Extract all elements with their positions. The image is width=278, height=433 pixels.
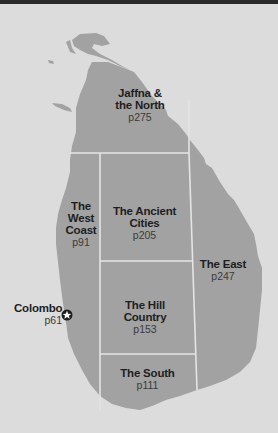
- mannar-islet: [52, 103, 72, 112]
- page-ref: p205: [100, 229, 189, 241]
- region-name: The: [62, 200, 100, 212]
- region-label-ancient-cities[interactable]: The Ancient Cities p205: [100, 205, 189, 241]
- region-name: Jaffna &: [95, 87, 185, 99]
- region-name: West: [62, 212, 100, 224]
- page-ref: p111: [100, 379, 195, 391]
- page-ref: p61: [14, 314, 62, 326]
- region-label-west-coast[interactable]: The West Coast p91: [62, 200, 100, 248]
- page-ref: p247: [195, 270, 251, 282]
- page-ref: p153: [100, 323, 190, 335]
- star-in-circle-icon[interactable]: [62, 310, 73, 321]
- region-name: The Ancient: [100, 205, 189, 217]
- region-name: Cities: [100, 217, 189, 229]
- page-ref: p91: [62, 236, 100, 248]
- region-name: The South: [100, 367, 195, 379]
- region-name: Coast: [62, 224, 100, 236]
- islet: [48, 60, 54, 64]
- region-label-east[interactable]: The East p247: [195, 258, 251, 282]
- page-ref: p275: [95, 111, 185, 123]
- region-label-jaffna[interactable]: Jaffna & the North p275: [95, 87, 185, 123]
- region-label-south[interactable]: The South p111: [100, 367, 195, 391]
- city-name: Colombo: [14, 302, 62, 314]
- region-name: Country: [100, 311, 190, 323]
- city-label-colombo[interactable]: Colombo p61: [14, 302, 62, 326]
- region-name: The East: [195, 258, 251, 270]
- region-label-hill-country[interactable]: The Hill Country p153: [100, 299, 190, 335]
- region-name: The Hill: [100, 299, 190, 311]
- region-name: the North: [95, 99, 185, 111]
